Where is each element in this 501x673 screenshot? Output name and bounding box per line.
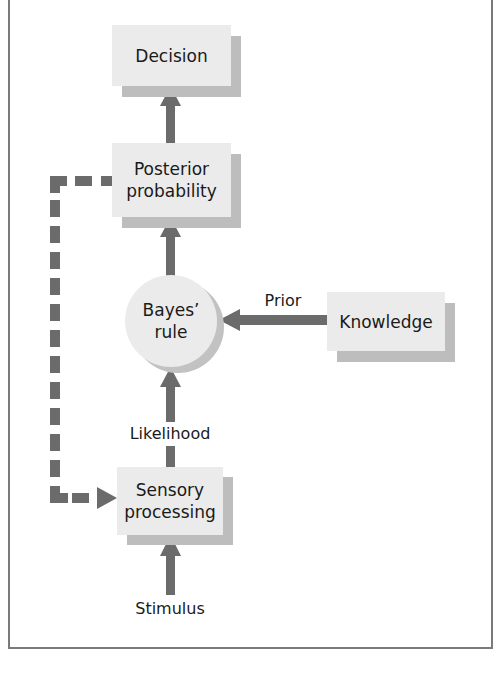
stimulus-label: Stimulus: [120, 599, 220, 619]
prior-label: Prior: [253, 291, 313, 311]
posterior-node: Posterior probability: [112, 143, 231, 217]
arrow-knowledge-to-bayes: [219, 309, 328, 331]
decision-node: Decision: [112, 25, 231, 86]
dashed-arrow-posterior-to-sensory: [50, 176, 117, 509]
likelihood-label: Likelihood: [115, 424, 225, 444]
sensory-label-line1: Sensory: [136, 479, 204, 501]
posterior-label-line2: probability: [126, 180, 217, 202]
bayes-rule-node: Bayes’ rule: [125, 275, 217, 367]
bayes-label-line2: rule: [155, 321, 188, 343]
knowledge-node: Knowledge: [327, 292, 445, 351]
sensory-label-line2: processing: [124, 501, 216, 523]
bayes-label-line1: Bayes’: [143, 299, 200, 321]
knowledge-label: Knowledge: [339, 311, 432, 333]
arrow-sensory-to-bayes: [160, 367, 181, 467]
decision-label: Decision: [135, 45, 207, 67]
sensory-node: Sensory processing: [117, 467, 223, 535]
posterior-label-line1: Posterior: [134, 158, 209, 180]
